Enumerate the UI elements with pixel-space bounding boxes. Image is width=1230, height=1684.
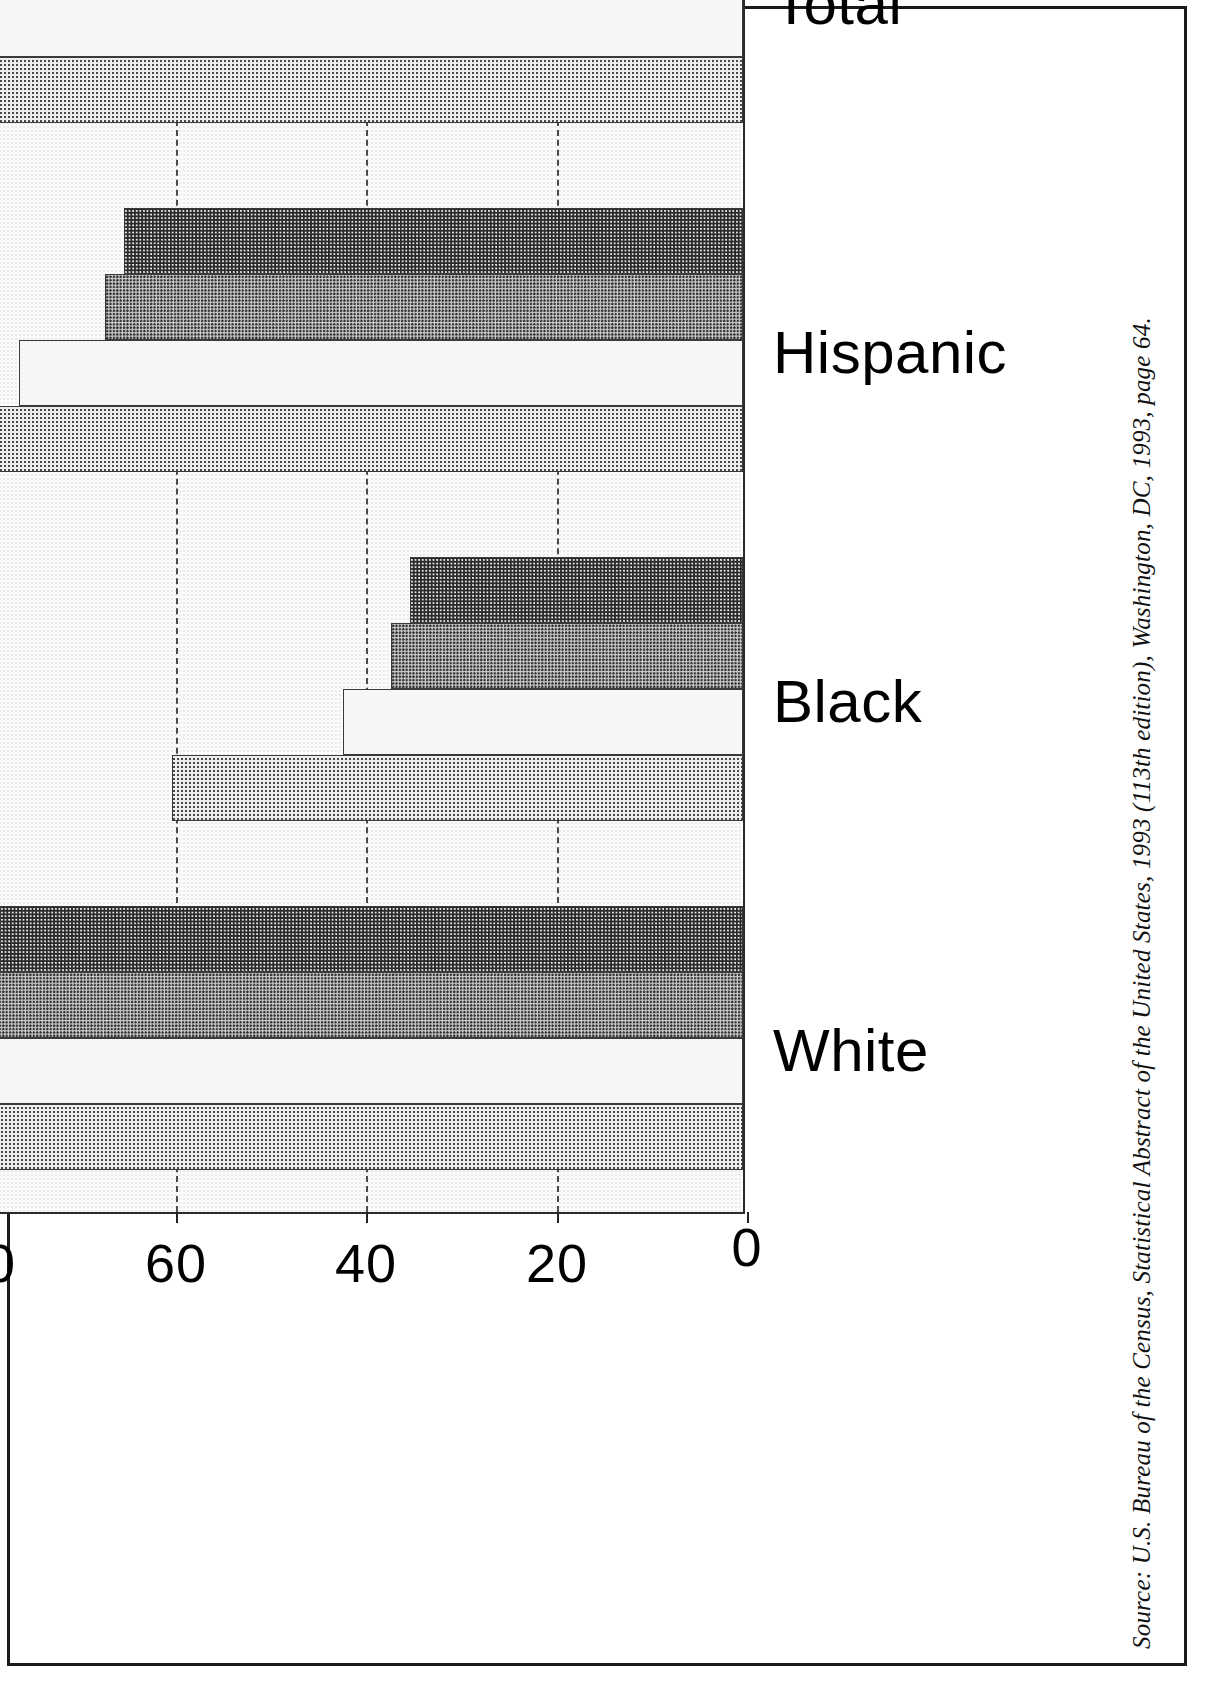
tick-60 — [176, 1212, 178, 1223]
category-label-white: White — [773, 1016, 929, 1085]
bar-hispanic-1980 — [19, 340, 743, 406]
source-note: Source: U.S. Bureau of the Census, Stati… — [1128, 317, 1156, 1649]
tick-label-40: 40 — [335, 1232, 397, 1294]
bar-black-1992 — [410, 557, 743, 623]
bar-hispanic-1992 — [124, 208, 743, 274]
rotated-chart-stage: 020406080100 WhiteBlackHispanicTotal 197… — [0, 0, 915, 1409]
plot-area: 020406080100 WhiteBlackHispanicTotal 197… — [0, 0, 745, 1214]
category-label-hispanic: Hispanic — [773, 318, 1007, 387]
bar-total-1980 — [0, 0, 743, 57]
bar-white-1980 — [0, 1038, 743, 1104]
bar-total-1970 — [0, 57, 743, 123]
tick-label-60: 60 — [145, 1232, 207, 1294]
bar-black-1990 — [391, 623, 743, 689]
bar-hispanic-1990 — [105, 274, 743, 340]
category-label-total: Total — [773, 0, 902, 38]
tick-20 — [557, 1212, 559, 1223]
bar-hispanic-1970 — [0, 406, 743, 472]
tick-label-20: 20 — [526, 1232, 588, 1294]
bar-black-1980 — [343, 689, 743, 755]
bar-group-total: Total — [0, 0, 743, 123]
bar-white-1992 — [0, 906, 743, 972]
tick-label-0: 0 — [731, 1217, 762, 1279]
figure-border: 020406080100 WhiteBlackHispanicTotal 197… — [7, 6, 1187, 1666]
bar-group-white: White — [0, 906, 743, 1170]
bar-group-black: Black — [0, 557, 743, 821]
bar-group-hispanic: Hispanic — [0, 208, 743, 472]
bar-white-1970 — [0, 1104, 743, 1170]
bar-white-1990 — [0, 972, 743, 1038]
bar-black-1970 — [172, 755, 743, 821]
tick-label-80: 80 — [0, 1232, 16, 1294]
category-label-black: Black — [773, 667, 922, 736]
tick-40 — [366, 1212, 368, 1223]
